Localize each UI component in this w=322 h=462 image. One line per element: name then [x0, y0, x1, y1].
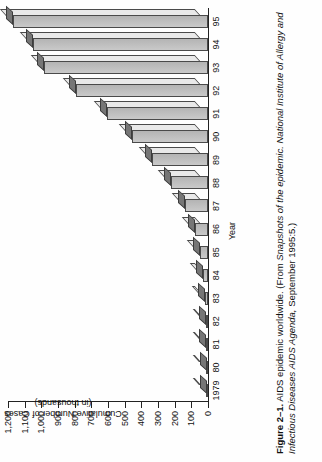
- bar-top-face: [200, 352, 207, 371]
- bar-front-face: [152, 153, 208, 166]
- bar-front-face: [13, 15, 208, 28]
- category-tick-83: 83: [212, 287, 221, 310]
- category-tick-86: 86: [212, 218, 221, 241]
- category-tick-91: 91: [212, 102, 221, 125]
- bar-90: [132, 130, 208, 143]
- bar-front-face: [76, 84, 208, 97]
- category-tick-84: 84: [212, 264, 221, 287]
- bar-front-face: [132, 130, 208, 143]
- value-tick-mark-400: [141, 402, 142, 408]
- bar-top-face: [200, 375, 207, 394]
- bar-85: [200, 246, 208, 259]
- category-tick-80: 80: [212, 356, 221, 379]
- bar-front-face: [195, 223, 208, 236]
- bar-94: [33, 38, 208, 51]
- bar-89: [152, 153, 208, 166]
- bar-top-face: [198, 282, 205, 301]
- bar-top-face: [199, 305, 206, 324]
- bar-front-face: [107, 107, 208, 120]
- figure-number: Figure 2–1.: [274, 404, 285, 454]
- category-tick-81: 81: [212, 333, 221, 356]
- bar-87: [185, 200, 208, 213]
- value-axis-title-line2: (in thousands): [3, 397, 123, 408]
- category-axis-line: [208, 8, 209, 402]
- value-axis-title: Cumulative Number of Cases (in thousands…: [3, 397, 123, 419]
- value-tick-mark-100: [191, 402, 192, 408]
- value-tick-label-0: 0: [204, 411, 213, 416]
- value-tick-label-400: 400: [137, 411, 146, 426]
- plot-area: [8, 10, 208, 402]
- category-tick-85: 85: [212, 241, 221, 264]
- value-tick-mark-500: [125, 402, 126, 408]
- bar-top-face: [196, 259, 203, 278]
- figure-title: AIDS epidemic worldwide.: [274, 289, 285, 404]
- bar-top-face: [193, 236, 200, 255]
- figure-source-close: September 1995:5.): [286, 223, 297, 310]
- value-tick-mark-0: [208, 402, 209, 408]
- bar-86: [195, 223, 208, 236]
- value-tick-label-200: 200: [171, 411, 180, 426]
- category-tick-1979: 1979: [212, 379, 221, 402]
- value-tick-mark-200: [175, 402, 176, 408]
- figure-source-open: (From: [274, 261, 285, 289]
- figure-caption: Figure 2–1. AIDS epidemic worldwide. (Fr…: [274, 8, 298, 454]
- value-tick-label-300: 300: [154, 411, 163, 426]
- category-axis-title: Year: [228, 0, 237, 462]
- category-tick-95: 95: [212, 10, 221, 33]
- bar-chart: 01002003004005006007008009001,0001,1001,…: [0, 0, 272, 462]
- category-tick-94: 94: [212, 33, 221, 56]
- bar-92: [76, 84, 208, 97]
- bar-93: [44, 61, 208, 74]
- bar-front-face: [200, 246, 208, 259]
- value-tick-label-100: 100: [187, 411, 196, 426]
- category-tick-93: 93: [212, 56, 221, 79]
- bar-front-face: [171, 176, 208, 189]
- category-tick-82: 82: [212, 310, 221, 333]
- category-tick-90: 90: [212, 125, 221, 148]
- bar-95: [13, 15, 208, 28]
- bar-top-face: [199, 329, 206, 348]
- scanned-figure-page: 01002003004005006007008009001,0001,1001,…: [0, 0, 322, 462]
- bar-front-face: [44, 61, 208, 74]
- bar-front-face: [185, 200, 208, 213]
- value-tick-mark-300: [158, 402, 159, 408]
- value-axis-title-line1: Cumulative Number of Cases: [3, 408, 123, 419]
- category-tick-92: 92: [212, 79, 221, 102]
- bar-91: [107, 107, 208, 120]
- category-tick-88: 88: [212, 171, 221, 194]
- category-tick-89: 89: [212, 148, 221, 171]
- bar-front-face: [33, 38, 208, 51]
- category-tick-87: 87: [212, 194, 221, 217]
- bar-88: [171, 176, 208, 189]
